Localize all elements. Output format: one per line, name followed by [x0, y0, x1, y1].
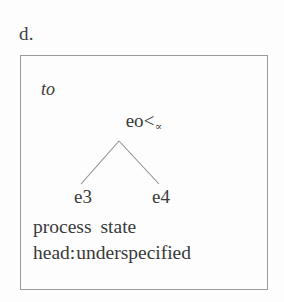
tree-root-event-label: eo [126, 110, 144, 131]
head-feature-row: head:underspecified [33, 240, 191, 266]
time-index-label: to [41, 80, 55, 98]
aspect-value-left: process [33, 216, 91, 237]
head-feature-key: head: [33, 242, 75, 263]
feature-annotation-block: processstate head:underspecified [33, 214, 191, 266]
tree-root-relation-operator: < [144, 110, 155, 131]
head-feature-value: underspecified [76, 242, 191, 263]
tree-root-node: eo<∝ [21, 111, 267, 132]
tree-leaf-e3: e3 [59, 187, 107, 206]
diagram-box: to eo<∝ e3 e4 processstate head:underspe… [20, 55, 268, 290]
aspect-value-right: state [100, 216, 136, 237]
figure-container: d. to eo<∝ e3 e4 processstate head:under… [0, 0, 284, 302]
tree-leaf-e4: e4 [137, 187, 185, 206]
tree-root-subscript-alpha: ∝ [155, 120, 162, 132]
tree-branch-left [81, 141, 119, 184]
tree-branch-right [119, 141, 159, 184]
aspect-feature-row: processstate [33, 214, 191, 240]
example-enumeration-label: d. [19, 24, 34, 43]
